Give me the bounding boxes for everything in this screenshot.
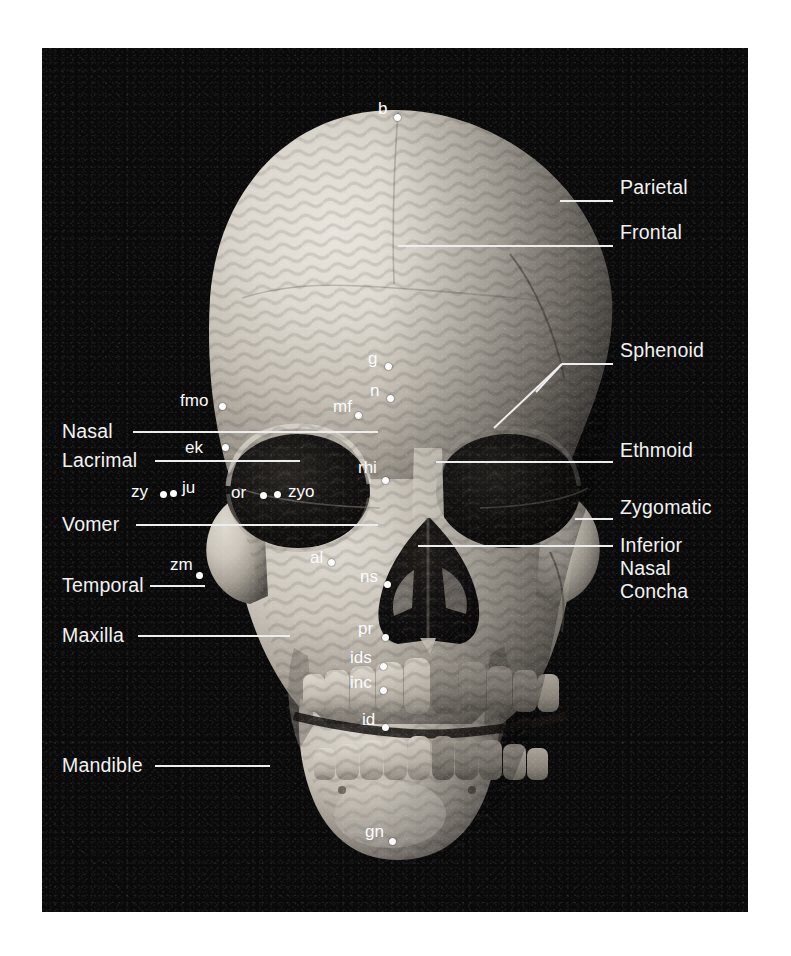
- landmark-label-zy: zy: [131, 483, 148, 500]
- callout-lacrimal: Lacrimal: [62, 449, 137, 472]
- landmark-label-rhi: rhi: [358, 459, 377, 476]
- callout-sphenoid: Sphenoid: [620, 339, 704, 362]
- landmark-label-al: al: [310, 549, 323, 566]
- landmark-label-n: n: [370, 382, 379, 399]
- landmark-label-b: b: [378, 100, 387, 117]
- landmark-point-b: [394, 114, 401, 121]
- callout-mandible: Mandible: [62, 754, 143, 777]
- landmark-point-ek: [222, 444, 229, 451]
- landmark-point-al: [328, 559, 335, 566]
- landmark-point-pr: [382, 634, 389, 641]
- callout-inferior-nasal-concha: Inferior Nasal Concha: [620, 534, 688, 603]
- leader-sphenoid-prong-b: [536, 364, 562, 392]
- landmark-point-zyo: [274, 491, 281, 498]
- callout-frontal: Frontal: [620, 221, 682, 244]
- callout-parietal: Parietal: [620, 176, 688, 199]
- landmark-point-inc: [380, 687, 387, 694]
- landmark-label-pr: pr: [358, 620, 373, 637]
- landmark-point-ids: [380, 663, 387, 670]
- landmark-point-gn: [389, 838, 396, 845]
- landmark-point-g: [385, 363, 392, 370]
- landmark-label-ek: ek: [185, 439, 203, 456]
- callout-nasal: Nasal: [62, 420, 113, 443]
- landmark-point-n: [387, 395, 394, 402]
- landmark-point-zm: [196, 572, 203, 579]
- landmark-label-fmo: fmo: [180, 392, 208, 409]
- callout-ethmoid: Ethmoid: [620, 439, 693, 462]
- landmark-point-rhi: [382, 477, 389, 484]
- landmark-label-gn: gn: [365, 823, 384, 840]
- landmark-point-ju: [170, 490, 177, 497]
- landmark-label-zm: zm: [170, 556, 193, 573]
- landmark-point-or: [260, 492, 267, 499]
- landmark-label-ids: ids: [350, 649, 372, 666]
- callout-maxilla: Maxilla: [62, 624, 124, 647]
- callout-vomer: Vomer: [62, 513, 119, 536]
- landmark-label-inc: inc: [350, 674, 372, 691]
- landmark-point-zy: [160, 491, 167, 498]
- landmark-point-fmo: [219, 403, 226, 410]
- landmark-label-id: id: [362, 711, 375, 728]
- callout-zygomatic: Zygomatic: [620, 496, 712, 519]
- landmark-label-ju: ju: [182, 479, 195, 496]
- callout-temporal: Temporal: [62, 574, 144, 597]
- landmark-point-mf: [355, 412, 362, 419]
- landmark-point-ns: [384, 581, 391, 588]
- landmark-label-zyo: zyo: [288, 483, 314, 500]
- landmark-point-id: [382, 724, 389, 731]
- landmark-label-g: g: [368, 350, 377, 367]
- landmark-label-ns: ns: [360, 568, 378, 585]
- landmark-label-or: or: [231, 484, 246, 501]
- landmark-label-mf: mf: [333, 398, 352, 415]
